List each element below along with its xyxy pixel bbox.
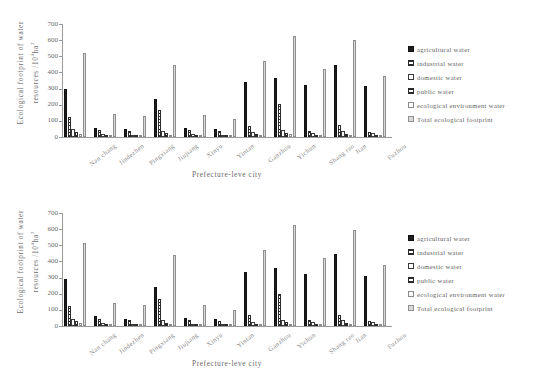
legend-swatch-icon — [408, 291, 414, 297]
legend-swatch-icon — [408, 60, 414, 66]
x-category-label: Yintan — [235, 331, 255, 349]
x-category-label: Shang rao — [327, 142, 355, 166]
x-category-label: Jindezhen — [117, 331, 145, 355]
y-tick-mark — [59, 105, 62, 106]
bar-total-ecological-footprint — [173, 255, 176, 327]
bar-total-ecological-footprint — [143, 116, 146, 137]
legend-label: agricultural water — [417, 46, 470, 53]
legend-label: ecological environment water — [417, 102, 505, 109]
legend-swatch-icon — [408, 249, 414, 255]
y-tick-label: 0 — [32, 323, 58, 330]
y-tick-label: 700 — [32, 210, 58, 217]
bar-group — [154, 213, 180, 326]
legend-item-total: Total ecological footprint — [408, 301, 505, 315]
x-category-label: Yichun — [295, 142, 316, 161]
bar-agricultural-water — [304, 274, 307, 326]
y-tick-mark — [59, 310, 62, 311]
bar-total-ecological-footprint — [353, 230, 356, 326]
y-tick-mark — [59, 89, 62, 90]
x-category-label: Pingxiang — [147, 331, 175, 355]
legend-label: ecological environment water — [417, 291, 505, 298]
bar-group — [124, 24, 150, 137]
x-axis-title: Prefecture-leve city — [62, 170, 392, 179]
y-tick-mark — [59, 213, 62, 214]
bar-total-ecological-footprint — [83, 243, 86, 326]
chart-bottom: Ecological footprint of water resources … — [0, 189, 558, 378]
x-category-label: Yintan — [235, 142, 255, 160]
y-tick-mark — [59, 229, 62, 230]
bar-agricultural-water — [364, 86, 367, 137]
bar-group — [304, 213, 330, 326]
y-tick-mark — [59, 278, 62, 279]
bar-group — [64, 213, 90, 326]
bar-total-ecological-footprint — [113, 114, 116, 137]
legend-item-industrial: industrial water — [408, 245, 505, 259]
y-tick-mark — [59, 24, 62, 25]
legend-label: industrial water — [417, 249, 464, 256]
y-tick-label: 100 — [32, 117, 58, 124]
legend-swatch-icon — [408, 235, 414, 241]
legend-item-agricultural: agricultural water — [408, 42, 505, 56]
bar-group — [244, 24, 270, 137]
legend-item-total: Total ecological footprint — [408, 112, 505, 126]
x-category-label: Jian — [353, 142, 367, 155]
y-tick-label: 600 — [32, 37, 58, 44]
x-category-label: Xinyu — [205, 142, 224, 159]
x-category-label: Fuzhou — [385, 142, 407, 161]
y-tick-mark — [59, 56, 62, 57]
legend-item-domestic: domestic water — [408, 70, 505, 84]
y-tick-label: 400 — [32, 258, 58, 265]
x-category-label: Yichun — [295, 331, 316, 350]
x-category-label: Xinyu — [205, 331, 224, 348]
bar-group — [214, 24, 240, 137]
legend-item-ecological_environment: ecological environment water — [408, 287, 505, 301]
legend-label: public water — [417, 88, 454, 95]
legend-swatch-icon — [408, 46, 414, 52]
x-category-label: Ganzhou — [266, 142, 291, 164]
legend-bottom: agricultural waterindustrial waterdomest… — [408, 231, 505, 315]
bar-total-ecological-footprint — [293, 36, 296, 137]
y-axis-title-line1: Ecological footprint of water — [17, 210, 25, 314]
bar-total-ecological-footprint — [383, 76, 386, 137]
x-category-label: Jian — [353, 331, 367, 344]
bar-total-ecological-footprint — [203, 115, 206, 137]
y-axis-line — [62, 213, 63, 327]
bar-group — [154, 24, 180, 137]
bar-total-ecological-footprint — [83, 53, 86, 137]
legend-label: Total ecological footprint — [417, 116, 493, 123]
plot-area-bottom: 0100200300400500600700Nan changJindezhen… — [62, 213, 392, 327]
bar-total-ecological-footprint — [323, 258, 326, 326]
bar-group — [184, 24, 210, 137]
y-tick-label: 0 — [32, 134, 58, 141]
y-tick-mark — [59, 40, 62, 41]
bar-total-ecological-footprint — [383, 265, 386, 326]
y-tick-label: 500 — [32, 242, 58, 249]
y-tick-label: 500 — [32, 53, 58, 60]
y-axis-title-line1: Ecological footprint of water — [17, 21, 25, 125]
legend-item-public: public water — [408, 84, 505, 98]
legend-label: domestic water — [417, 263, 462, 270]
bar-total-ecological-footprint — [113, 303, 116, 326]
bar-group — [304, 24, 330, 137]
bar-group — [364, 213, 390, 326]
bar-group — [364, 24, 390, 137]
x-axis-line — [62, 137, 392, 138]
bar-group — [124, 213, 150, 326]
bar-group — [274, 213, 300, 326]
legend-label: public water — [417, 277, 454, 284]
y-tick-label: 200 — [32, 101, 58, 108]
legend-swatch-icon — [408, 305, 414, 311]
y-tick-label: 300 — [32, 274, 58, 281]
x-category-label: Nan chang — [87, 142, 117, 167]
legend-swatch-icon — [408, 263, 414, 269]
bar-group — [244, 213, 270, 326]
legend-swatch-icon — [408, 277, 414, 283]
chart-top: Ecological footprint of water resources … — [0, 0, 558, 189]
x-category-label: Ganzhou — [266, 331, 291, 353]
bar-group — [214, 213, 240, 326]
x-category-label: Jiujiang — [176, 142, 199, 162]
y-tick-mark — [59, 72, 62, 73]
y-tick-mark — [59, 137, 62, 138]
legend-swatch-icon — [408, 102, 414, 108]
y-tick-mark — [59, 294, 62, 295]
